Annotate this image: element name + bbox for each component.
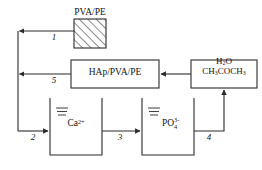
edge-label-5: 5 xyxy=(47,75,61,85)
node-calcium-beaker xyxy=(50,98,102,155)
edge-4-line xyxy=(194,90,224,131)
process-flow-diagram: PVA/PE HAp/PVA/PE H2O CH3COCH3 Ca2+ PO3-… xyxy=(0,0,262,170)
node-solvent-box xyxy=(191,60,257,88)
node-phosphate-beaker xyxy=(142,98,194,155)
edge-label-2: 2 xyxy=(26,132,40,142)
edge-label-1: 1 xyxy=(47,32,61,42)
edge-label-3: 3 xyxy=(113,132,127,142)
edge-label-4: 4 xyxy=(202,132,216,142)
node-hap-pva-pe-box xyxy=(71,60,159,88)
node-pva-pe-block xyxy=(74,19,106,48)
pva-pe-hatched-rect xyxy=(74,19,106,48)
flow-diagram-canvas xyxy=(0,0,262,170)
